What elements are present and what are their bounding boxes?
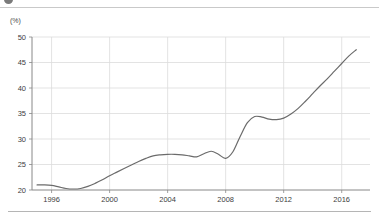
toolbar-fragment: — <box>20 0 30 7</box>
svg-text:50: 50 <box>18 33 26 42</box>
x-axis-ticks: 199620002004200820122016 <box>43 190 350 204</box>
chart-canvas: 20253035404550 199620002004200820122016 <box>0 8 379 212</box>
svg-text:2000: 2000 <box>101 195 118 204</box>
svg-text:30: 30 <box>18 135 26 144</box>
data-series-line <box>37 50 356 189</box>
top-toolbar-strip: — — — — — — <box>0 0 379 7</box>
svg-text:2004: 2004 <box>159 195 176 204</box>
circle-icon <box>4 0 13 4</box>
svg-text:35: 35 <box>18 109 26 118</box>
svg-text:2012: 2012 <box>275 195 292 204</box>
grid-lines <box>32 37 370 190</box>
svg-text:45: 45 <box>18 58 26 67</box>
toolbar-fragment: — <box>84 0 94 7</box>
svg-text:1996: 1996 <box>43 195 60 204</box>
y-axis-ticks: 20253035404550 <box>18 33 32 195</box>
toolbar-content: — — — — — — <box>4 0 111 7</box>
line-chart: (%) 20253035404550 199620002004200820122… <box>0 8 379 212</box>
svg-text:40: 40 <box>18 84 26 93</box>
svg-text:2008: 2008 <box>217 195 234 204</box>
toolbar-fragment: — <box>67 0 77 7</box>
svg-text:2016: 2016 <box>333 195 350 204</box>
svg-text:25: 25 <box>18 160 26 169</box>
toolbar-fragment: — — <box>37 0 60 7</box>
svg-text:20: 20 <box>18 186 26 195</box>
toolbar-fragment: — <box>101 0 111 7</box>
footer-divider <box>8 211 371 212</box>
